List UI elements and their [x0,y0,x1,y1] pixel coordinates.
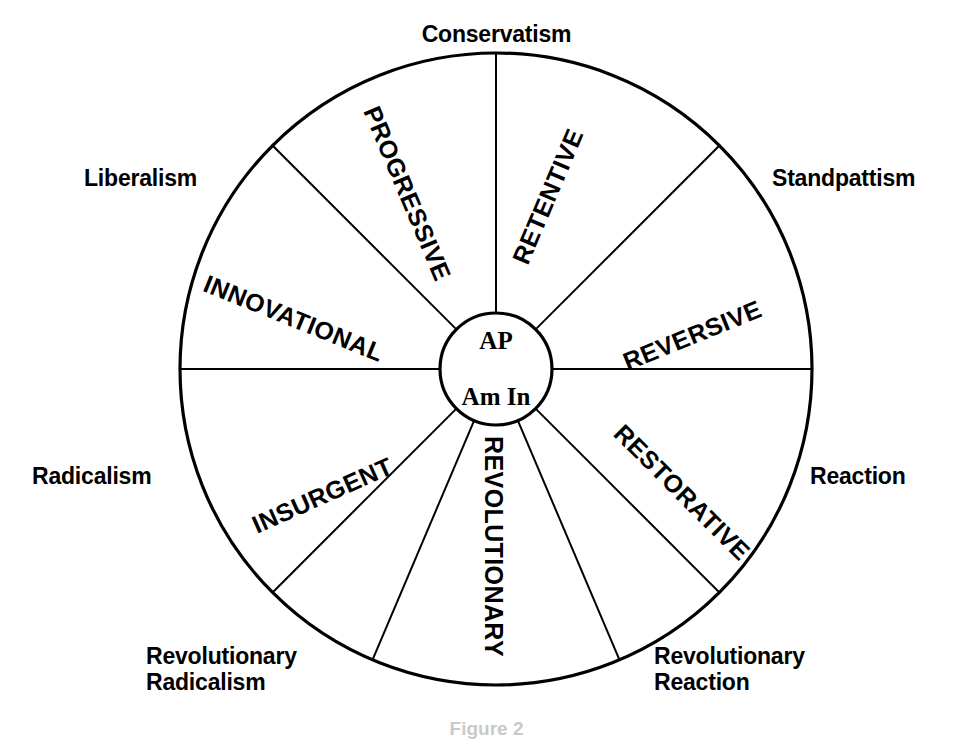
rim-label-radicalism: Radicalism [32,464,151,490]
rim-label-conservatism: Conservatism [404,22,589,48]
rim-label-revolutionary-reaction: Revolutionary Reaction [654,644,805,696]
rim-label-revolutionary-radicalism: Revolutionary Radicalism [146,644,297,696]
rim-label-standpattism: Standpattism [772,166,915,192]
hub-label: AP Am In [426,299,566,439]
spoke-revolutionary-bottom-right [518,421,620,660]
political-spectrum-wheel-figure: ConservatismStandpattismReactionRevoluti… [0,0,973,742]
sector-label-revolutionary: REVOLUTIONARY [478,436,507,657]
hub-label-line-1: AP [426,327,566,355]
rim-label-reaction: Reaction [810,464,906,490]
rim-label-liberalism: Liberalism [84,166,197,192]
figure-caption: Figure 2 [0,718,973,740]
hub-label-line-2: Am In [426,383,566,411]
